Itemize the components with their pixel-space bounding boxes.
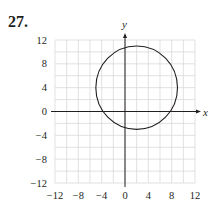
y-axis-arrow-icon bbox=[123, 33, 127, 38]
x-tick-label: 12 bbox=[190, 190, 201, 201]
x-axis-label: x bbox=[202, 106, 208, 118]
x-tick-label: 4 bbox=[146, 190, 152, 201]
x-tick-label: −8 bbox=[73, 190, 84, 201]
x-tick-label: −12 bbox=[47, 190, 63, 201]
y-tick-label: −4 bbox=[36, 130, 48, 141]
y-axis-label: y bbox=[121, 18, 127, 30]
x-tick-label: 0 bbox=[122, 190, 127, 201]
x-axis-arrow-icon bbox=[196, 110, 201, 114]
axes bbox=[51, 33, 201, 187]
tick-labels: −12−8−40481212840−4−8−12 bbox=[31, 35, 201, 202]
x-tick-label: −4 bbox=[96, 190, 108, 201]
y-tick-label: 12 bbox=[37, 35, 48, 46]
y-tick-label: −8 bbox=[36, 154, 47, 165]
circle-graph: −12−8−40481212840−4−8−12 x y bbox=[0, 0, 218, 207]
y-tick-label: 4 bbox=[42, 82, 48, 93]
y-tick-label: 0 bbox=[42, 106, 47, 117]
x-tick-label: 8 bbox=[169, 190, 174, 201]
y-tick-label: −12 bbox=[31, 178, 47, 189]
y-tick-label: 8 bbox=[42, 58, 47, 69]
